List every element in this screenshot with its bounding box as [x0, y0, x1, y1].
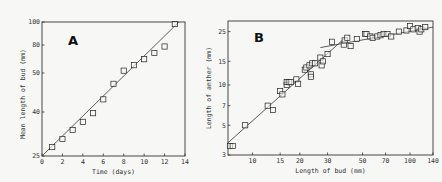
- data-point: [389, 34, 394, 39]
- x-tick-label: 15: [276, 157, 284, 165]
- data-point: [90, 111, 95, 116]
- x-tick-label: 100: [404, 157, 416, 165]
- x-tick-label: 140: [427, 157, 439, 165]
- panel-b: B101520305070100140357101525Length of bu…: [205, 21, 439, 175]
- data-point: [296, 81, 301, 86]
- data-point: [142, 57, 147, 62]
- y-tick-label: 25: [218, 28, 226, 36]
- data-point: [270, 107, 275, 112]
- data-point: [131, 63, 136, 68]
- y-tick-label: 7: [222, 102, 226, 110]
- data-point: [80, 119, 85, 124]
- fit-line: [42, 22, 179, 156]
- y-tick-label: 15: [218, 58, 226, 66]
- data-point: [265, 103, 270, 108]
- data-point: [329, 39, 334, 44]
- data-point: [162, 44, 167, 49]
- y-tick-label: 10: [218, 81, 226, 89]
- data-point: [348, 43, 353, 48]
- x-tick-label: 10: [140, 158, 148, 166]
- data-point: [280, 92, 285, 97]
- data-point: [313, 61, 318, 66]
- x-tick-label: 70: [382, 157, 390, 165]
- y-axis-label: Length of anther (mm): [205, 47, 213, 129]
- y-tick-label: 50: [32, 69, 40, 77]
- data-point: [354, 36, 359, 41]
- panel-a: A0246810121425405080100Time (days)Mean l…: [19, 18, 189, 176]
- data-point: [345, 35, 350, 40]
- data-point: [320, 59, 325, 64]
- y-tick-label: 25: [32, 152, 40, 160]
- data-point: [70, 127, 75, 132]
- data-point: [230, 143, 235, 148]
- data-point: [172, 21, 177, 26]
- figure-canvas: A0246810121425405080100Time (days)Mean l…: [0, 0, 442, 182]
- data-point: [152, 50, 157, 55]
- x-tick-label: 50: [359, 157, 367, 165]
- x-tick-label: 2: [60, 158, 64, 166]
- x-axis-label: Length of bud (mm): [295, 167, 365, 175]
- x-tick-label: 4: [81, 158, 85, 166]
- panel-label: B: [254, 30, 264, 45]
- plot-frame: [42, 22, 185, 156]
- x-tick-label: 0: [40, 158, 44, 166]
- x-tick-label: 30: [324, 157, 332, 165]
- y-tick-label: 5: [222, 122, 226, 130]
- y-tick-label: 3: [222, 151, 226, 159]
- data-point: [396, 29, 401, 34]
- x-tick-label: 12: [161, 158, 169, 166]
- x-axis-label: Time (days): [92, 168, 135, 176]
- x-tick-label: 14: [181, 158, 189, 166]
- x-tick-label: 6: [101, 158, 105, 166]
- data-point: [308, 74, 313, 79]
- data-point: [121, 68, 126, 73]
- data-point: [101, 97, 106, 102]
- x-tick-label: 8: [122, 158, 126, 166]
- y-axis-label: Mean length of bud (mm): [19, 49, 27, 139]
- y-tick-label: 100: [28, 18, 40, 26]
- data-point: [423, 25, 428, 30]
- data-point: [50, 144, 55, 149]
- x-tick-label: 10: [248, 157, 256, 165]
- data-point: [243, 123, 248, 128]
- data-point: [111, 81, 116, 86]
- y-tick-label: 80: [32, 41, 40, 49]
- data-point: [325, 51, 330, 56]
- data-point: [288, 79, 293, 84]
- data-point: [60, 136, 65, 141]
- x-tick-label: 20: [296, 157, 304, 165]
- panel-label: A: [68, 33, 78, 48]
- y-tick-label: 40: [32, 108, 40, 116]
